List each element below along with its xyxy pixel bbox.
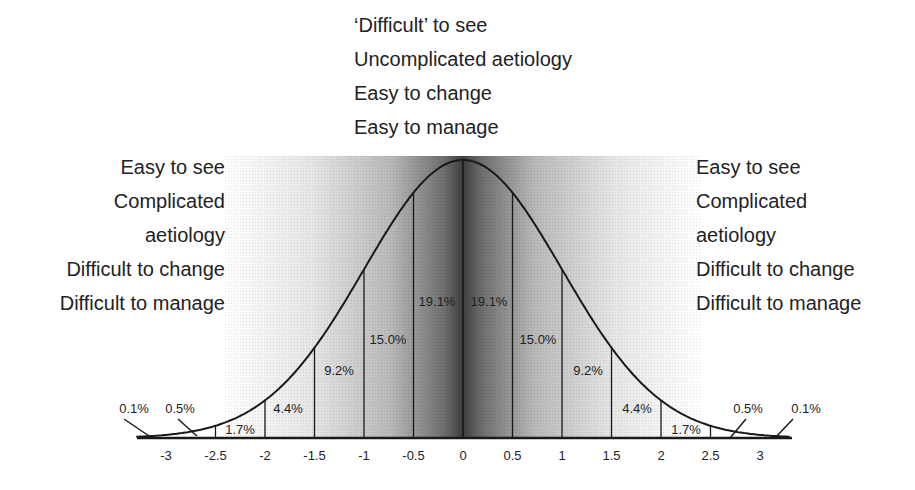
x-tick-label: 2 xyxy=(657,448,664,463)
percent-label: 0.1% xyxy=(791,401,821,416)
center-annotation: ‘Difficult’ to see Uncomplicated aetiolo… xyxy=(354,8,572,144)
percent-label: 0.5% xyxy=(165,401,195,416)
right-tail-annotation: Easy to see Complicated aetiology Diffic… xyxy=(696,150,861,320)
leader-line xyxy=(124,419,152,438)
right-annotation-line: Easy to see xyxy=(696,150,861,184)
percent-label: 1.7% xyxy=(225,422,255,437)
right-annotation-line: aetiology xyxy=(696,218,861,252)
x-tick-label: 1 xyxy=(558,448,565,463)
x-tick-label: -2 xyxy=(259,448,271,463)
left-annotation-line: Difficult to manage xyxy=(60,286,225,320)
leader-line xyxy=(775,419,793,438)
x-axis: -3-2.5-2-1.5-1-0.500.511.522.53 xyxy=(137,438,792,463)
right-annotation-line: Difficult to change xyxy=(696,252,861,286)
x-tick-label: 0.5 xyxy=(503,448,521,463)
x-tick-label: 2.5 xyxy=(701,448,719,463)
left-annotation-line: Complicated xyxy=(60,184,225,218)
percent-label: 9.2% xyxy=(324,363,354,378)
percent-label: 0.1% xyxy=(119,401,149,416)
left-tail-annotation: Easy to see Complicated aetiology Diffic… xyxy=(60,150,225,320)
x-tick-label: 3 xyxy=(756,448,763,463)
center-annotation-line: Easy to change xyxy=(354,76,572,110)
percent-label: 19.1% xyxy=(419,294,456,309)
percent-label: 15.0% xyxy=(520,332,557,347)
x-tick-label: -1.5 xyxy=(303,448,325,463)
percent-label: 0.5% xyxy=(733,401,763,416)
center-annotation-line: Uncomplicated aetiology xyxy=(354,42,572,76)
left-annotation-line: aetiology xyxy=(60,218,225,252)
left-annotation-line: Difficult to change xyxy=(60,252,225,286)
x-tick-label: -0.5 xyxy=(402,448,424,463)
percent-label: 1.7% xyxy=(671,422,701,437)
percent-label: 9.2% xyxy=(573,363,603,378)
percent-label: 19.1% xyxy=(471,294,508,309)
left-annotation-line: Easy to see xyxy=(60,150,225,184)
x-tick-label: -1 xyxy=(358,448,370,463)
leader-line xyxy=(730,419,746,438)
right-annotation-line: Difficult to manage xyxy=(696,286,861,320)
x-tick-label: -3 xyxy=(160,448,172,463)
x-tick-label: 0 xyxy=(459,448,466,463)
percent-label: 4.4% xyxy=(273,401,303,416)
x-tick-label: -2.5 xyxy=(204,448,226,463)
right-annotation-line: Complicated xyxy=(696,184,861,218)
percent-label: 15.0% xyxy=(370,332,407,347)
x-tick-label: 1.5 xyxy=(602,448,620,463)
center-annotation-line: Easy to manage xyxy=(354,110,572,144)
percent-label: 4.4% xyxy=(622,401,652,416)
center-annotation-line: ‘Difficult’ to see xyxy=(354,8,572,42)
